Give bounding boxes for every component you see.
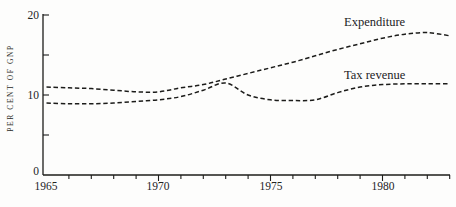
x-tick-label-1980: 1980 bbox=[365, 180, 401, 193]
y-axis-ticks bbox=[43, 15, 49, 135]
y-tick-label-0: 0 bbox=[13, 165, 39, 178]
x-tick-label-1965: 1965 bbox=[28, 180, 64, 193]
expenditure-label: Expenditure bbox=[344, 15, 405, 29]
chart-canvas bbox=[0, 0, 456, 207]
expenditure-line bbox=[47, 33, 450, 93]
y-tick-label-10: 10 bbox=[13, 89, 39, 102]
tax-revenue-line bbox=[47, 83, 450, 104]
tax-revenue-label: Tax revenue bbox=[344, 68, 405, 82]
chart-figure: PER CENT OF GNP 20 10 0 1965 1970 1975 1… bbox=[0, 0, 456, 207]
x-tick-label-1975: 1975 bbox=[253, 180, 289, 193]
x-tick-label-1970: 1970 bbox=[140, 180, 176, 193]
y-tick-label-20: 20 bbox=[13, 9, 39, 22]
